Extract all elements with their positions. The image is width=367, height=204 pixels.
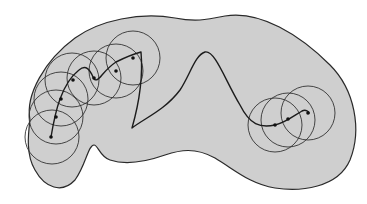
path-node bbox=[306, 111, 310, 115]
path-node bbox=[286, 117, 290, 121]
path-node bbox=[114, 69, 118, 73]
path-node bbox=[273, 123, 277, 127]
diagram-canvas bbox=[0, 0, 367, 204]
path-node bbox=[92, 76, 96, 80]
path-node bbox=[71, 78, 75, 82]
path-node bbox=[131, 56, 135, 60]
free-space-region bbox=[28, 15, 355, 189]
path-node bbox=[49, 135, 53, 139]
path-node bbox=[54, 115, 58, 119]
path-node bbox=[59, 97, 63, 101]
